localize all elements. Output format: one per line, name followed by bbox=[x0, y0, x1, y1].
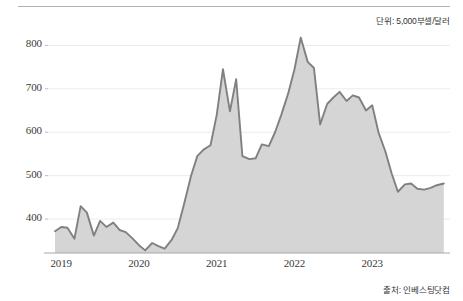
x-tick-label: 2023 bbox=[342, 257, 402, 269]
y-tick-label: 800 bbox=[2, 37, 42, 49]
x-tick-label: 2021 bbox=[187, 257, 247, 269]
x-tick-label: 2022 bbox=[264, 257, 324, 269]
area-fill-path bbox=[55, 38, 444, 253]
y-tick-label: 400 bbox=[2, 211, 42, 223]
chart-figure: 단위: 5,000부셀/달러 400500600700800 201920202… bbox=[0, 0, 463, 301]
x-tick-label: 2020 bbox=[109, 257, 169, 269]
y-tick-label: 700 bbox=[2, 81, 42, 93]
area-chart-plot bbox=[0, 0, 463, 301]
x-tick-label: 2019 bbox=[31, 257, 91, 269]
y-tick-label: 500 bbox=[2, 168, 42, 180]
source-annotation: 출처: 인베스팅닷컴 bbox=[383, 283, 450, 295]
y-tick-label: 600 bbox=[2, 124, 42, 136]
